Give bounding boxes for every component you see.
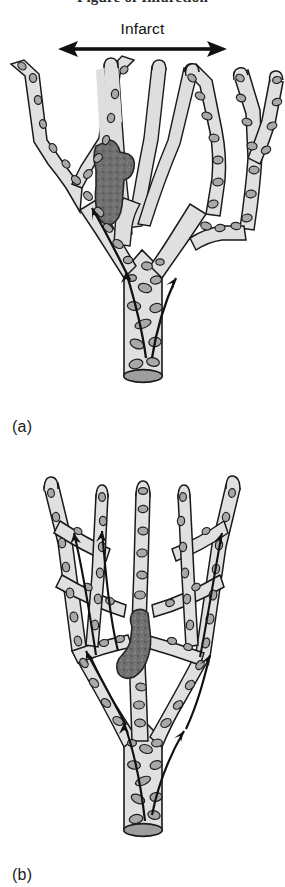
panel-b-anastomosing-circulation xyxy=(0,455,285,865)
branch-a-left-upper xyxy=(11,60,82,212)
vessel-cut-end-a xyxy=(124,370,163,383)
vessel-tree-b xyxy=(44,476,240,836)
page-header-strip: Figure of Infarction xyxy=(0,0,285,7)
panel-a-caption: (a) xyxy=(12,418,32,436)
figure-page: Figure of Infarction Infarct xyxy=(0,0,285,887)
infarct-branch-1-tip xyxy=(104,58,118,68)
infarct-branch-2-tip xyxy=(152,60,166,70)
page-header-title: Figure of Infarction xyxy=(0,0,285,6)
vessel-tree-a xyxy=(11,56,283,382)
vessel-cut-end-b xyxy=(124,824,163,837)
panel-a-end-arterial-circulation xyxy=(0,28,285,413)
panel-b-caption: (b) xyxy=(12,866,32,884)
